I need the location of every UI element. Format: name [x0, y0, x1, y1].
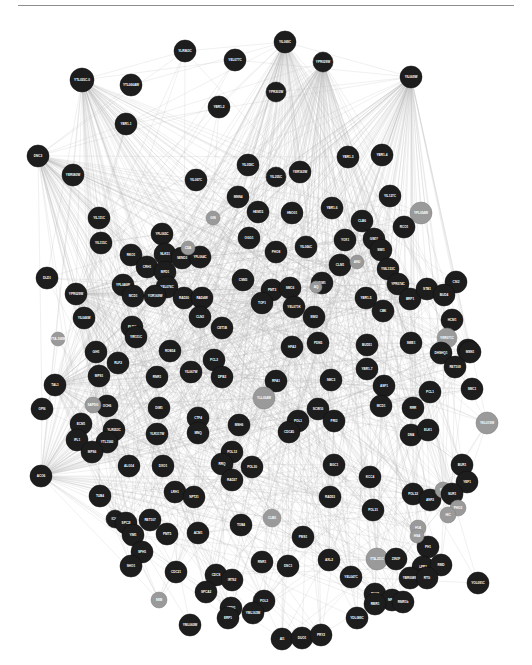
network-node[interactable]: RNR1	[251, 551, 273, 573]
network-node[interactable]: YIL067C	[185, 169, 207, 191]
network-node[interactable]: YBR1-4	[371, 144, 393, 166]
network-node[interactable]: MPS6	[81, 441, 103, 463]
network-node[interactable]: MCD1	[370, 395, 392, 417]
network-node[interactable]: HEM15	[247, 201, 269, 223]
network-node[interactable]: BUD4	[433, 284, 455, 306]
network-node[interactable]: CDC21	[165, 561, 187, 583]
network-node[interactable]: HCM1	[441, 309, 463, 331]
network-node[interactable]: GIH1	[85, 341, 107, 363]
network-node[interactable]: TAL1	[44, 374, 66, 396]
network-node[interactable]: YPR029W	[65, 283, 87, 305]
network-node[interactable]: CDA	[181, 241, 195, 255]
network-node[interactable]: YBR1-1	[115, 113, 137, 135]
network-node[interactable]: YIL127C	[379, 185, 401, 207]
network-node[interactable]: ERP1	[217, 607, 239, 629]
network-node[interactable]: YLL034W	[253, 387, 275, 409]
network-node[interactable]: HIC	[440, 507, 456, 523]
network-node[interactable]: TOF1	[251, 292, 273, 314]
network-node[interactable]: YTL066AW	[120, 74, 142, 96]
network-node[interactable]: YIL069C	[274, 31, 296, 53]
network-node[interactable]: YOL091C	[467, 572, 489, 594]
network-node[interactable]: MCD1	[122, 285, 144, 307]
network-node[interactable]: YFL065C	[151, 223, 173, 245]
network-node[interactable]: AHU	[350, 255, 364, 269]
network-node[interactable]: YIL046W	[73, 307, 95, 329]
network-node[interactable]: ACM1	[187, 522, 209, 544]
network-node[interactable]: YTL035C-0	[70, 68, 94, 92]
network-node[interactable]: RNR1	[146, 366, 168, 388]
network-node[interactable]: AXL2	[318, 549, 340, 571]
network-node[interactable]: YIL067W	[180, 361, 202, 383]
network-node[interactable]: YBR1-6	[321, 197, 343, 219]
network-node[interactable]: LRH1	[164, 481, 186, 503]
network-node[interactable]: PHO8	[265, 241, 287, 263]
network-node[interactable]: YIL205C	[266, 167, 286, 187]
network-node[interactable]: YOR169W	[144, 285, 166, 307]
network-node[interactable]: YIL111C	[88, 207, 110, 229]
network-node[interactable]: OPI6	[31, 398, 53, 420]
network-node[interactable]: ACO6	[30, 465, 52, 487]
network-node[interactable]: SHO1	[120, 555, 142, 577]
network-node[interactable]: PMT5	[156, 523, 178, 545]
network-node[interactable]: MNN4	[227, 186, 249, 208]
network-node[interactable]: YIR111C	[125, 326, 147, 348]
network-node[interactable]: YER080W	[62, 164, 84, 186]
network-node[interactable]: MSH6	[228, 414, 250, 436]
network-node[interactable]: HFA2	[281, 336, 303, 358]
network-node[interactable]: HNO01	[281, 202, 303, 224]
network-node[interactable]: BUD51	[356, 334, 378, 356]
network-node[interactable]: CSM3	[232, 269, 254, 291]
network-node[interactable]: NPT21	[183, 486, 205, 508]
network-node[interactable]: YEL047C	[340, 566, 362, 588]
network-node[interactable]: DIM1	[148, 397, 170, 419]
network-node[interactable]: CBK	[372, 300, 394, 322]
network-node[interactable]: SPCA2	[195, 581, 217, 603]
network-node[interactable]: SWI2	[303, 306, 325, 328]
network-node[interactable]: DSC1	[277, 555, 299, 577]
network-node[interactable]: AQ	[310, 281, 322, 293]
network-node[interactable]: RAD4W	[191, 287, 213, 309]
network-node[interactable]: YPR029W	[313, 52, 333, 72]
network-node[interactable]: SWE1	[400, 332, 422, 354]
network-node[interactable]: YPR203W	[266, 82, 286, 102]
network-node[interactable]: OGG1	[238, 227, 260, 249]
network-node[interactable]: TOB4	[230, 514, 252, 536]
network-node[interactable]: DUO1	[291, 627, 313, 649]
network-node[interactable]: ZIN1F	[385, 548, 407, 570]
network-node[interactable]: YML163W	[242, 602, 264, 624]
network-node[interactable]: YTA-169W	[51, 332, 66, 346]
network-node[interactable]: RMR1b	[392, 591, 414, 613]
network-node[interactable]: POL31	[362, 499, 384, 521]
network-node[interactable]: ASF1	[373, 375, 395, 397]
network-node[interactable]: KCC4	[359, 466, 381, 488]
network-node[interactable]: CDC45	[278, 421, 300, 443]
network-node[interactable]: HSA	[410, 529, 424, 543]
network-node[interactable]: PCL1	[419, 381, 441, 403]
network-node[interactable]: CLN2	[189, 306, 211, 328]
network-node[interactable]: SWI1	[370, 239, 392, 261]
network-node[interactable]: ALG14	[118, 455, 140, 477]
network-node[interactable]: SEB	[151, 592, 167, 608]
network-node[interactable]: SMC1	[461, 378, 483, 400]
network-node[interactable]: RAD27	[221, 469, 243, 491]
network-node[interactable]: MNQ	[187, 422, 209, 444]
network-node[interactable]: SMC3	[320, 369, 342, 391]
network-node[interactable]: RTG	[416, 567, 438, 589]
network-node[interactable]: DPB2	[211, 366, 233, 388]
network-node[interactable]: RMR1	[364, 593, 386, 615]
network-node[interactable]: YEL071K	[283, 296, 305, 318]
network-node[interactable]: YBR1-3	[337, 146, 359, 168]
network-node[interactable]: YOX1	[334, 229, 356, 251]
network-node[interactable]: YKL019W	[476, 412, 498, 434]
network-node[interactable]: MPS1	[88, 365, 110, 387]
network-node[interactable]: GIN	[206, 211, 220, 225]
network-node[interactable]: CLM1	[329, 254, 351, 276]
network-node[interactable]: YIL069W	[400, 66, 422, 88]
network-node[interactable]: YBR1-2	[208, 96, 230, 118]
network-node[interactable]: TUB4	[89, 485, 111, 507]
network-node[interactable]: IRT62	[221, 569, 243, 591]
network-node[interactable]: YIL115C	[90, 232, 112, 254]
network-node[interactable]: YER163W	[289, 161, 311, 183]
network-node[interactable]: RET109	[444, 356, 466, 378]
network-node[interactable]: YDL089C	[346, 607, 368, 629]
